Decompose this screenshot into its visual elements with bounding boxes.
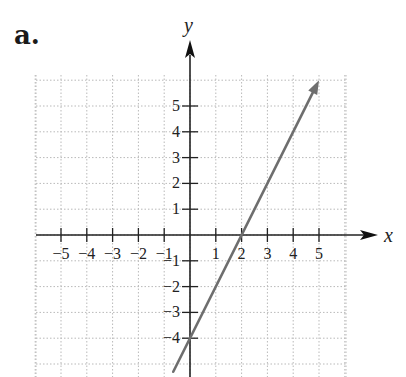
y-tick-label: 3 [172,149,180,166]
y-tick-label: 5 [172,97,180,114]
x-tick-label: −5 [52,245,69,262]
y-tick-label: −3 [163,303,180,320]
x-tick-label: 5 [315,245,323,262]
graph-figure: a. xy−5−4−3−2−11234554321−1−2−3−4 [0,0,406,377]
y-tick-label: −2 [163,278,180,295]
line-arrowhead-icon [308,80,319,95]
y-tick-label: 1 [172,200,180,217]
y-tick-label: 2 [172,174,180,191]
x-tick-label: −2 [130,245,147,262]
y-tick-label: −1 [163,252,180,269]
coordinate-plane: xy−5−4−3−2−11234554321−1−2−3−4 [0,0,406,377]
x-tick-label: 1 [212,245,220,262]
x-tick-label: 3 [263,245,271,262]
y-tick-label: −4 [163,329,180,346]
x-tick-label: 4 [289,245,297,262]
x-tick-label: −3 [104,245,121,262]
y-tick-label: 4 [172,123,180,140]
x-tick-label: −4 [78,245,95,262]
x-tick-label: 2 [238,245,246,262]
y-axis-label: y [182,14,193,37]
part-label: a. [14,20,40,50]
x-axis-label: x [383,224,393,246]
